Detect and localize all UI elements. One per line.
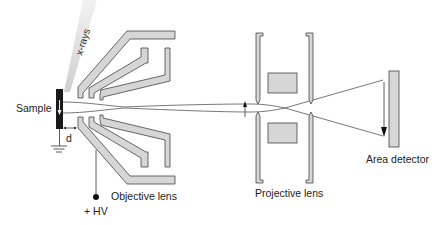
projective-pole-bottom [268, 123, 297, 143]
hv-label: + HV [84, 205, 108, 217]
distance-arrow-head-left [63, 127, 66, 130]
objective-lens-label: Objective lens [111, 190, 177, 202]
xrays-label: x-rays [73, 27, 92, 56]
projective-lens-label: Projective lens [255, 187, 323, 199]
distance-label: d [66, 132, 72, 144]
sample-label: Sample [16, 102, 52, 114]
projective-pole-top [268, 73, 297, 93]
area-detector-label: Area detector [366, 153, 430, 165]
pem-diagram: x-rays Sample d + HV Objective lens Proj… [0, 0, 445, 225]
projective-electrode-right-bottom [306, 112, 313, 183]
projective-electrode-right [306, 33, 313, 104]
projective-electrode-left-bottom [256, 112, 263, 183]
area-detector [389, 71, 399, 147]
projective-electrode-left [256, 33, 263, 104]
hv-terminal [93, 194, 99, 200]
distance-arrow-head-right [74, 127, 77, 130]
